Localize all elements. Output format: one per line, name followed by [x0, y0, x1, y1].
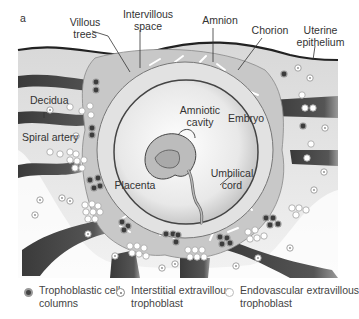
label-intervillous-space: Intervillous space [118, 8, 178, 32]
legend-label: Interstitial extravillous trophoblast [131, 284, 231, 309]
interstitial-trophoblast-icon [116, 288, 125, 297]
label-amniotic-cavity: Amniotic cavity [170, 104, 230, 128]
legend-interstitial-trophoblast: Interstitial extravillous trophoblast [116, 284, 231, 309]
trophoblastic-cell-column-icon [24, 288, 33, 297]
legend-label: Trophoblastic cell columns [39, 284, 120, 309]
label-chorion: Chorion [245, 24, 295, 36]
legend-trophoblastic-cell-columns: Trophoblastic cell columns [24, 284, 120, 309]
label-villous-trees: Villous trees [60, 16, 110, 40]
panel-label: a [20, 12, 26, 24]
label-decidua: Decidua [30, 94, 69, 106]
label-spiral-artery: Spiral artery [22, 131, 79, 143]
legend-endovascular-trophoblast: Endovascular extravillous trophoblast [225, 284, 359, 309]
endovascular-trophoblast-icon [225, 288, 234, 297]
label-placenta: Placenta [110, 179, 160, 191]
legend-label: Endovascular extravillous trophoblast [240, 284, 359, 309]
label-uterine-epithelium: Uterine epithelium [293, 24, 348, 48]
label-umbilical-cord: Umbilical cord [207, 167, 257, 191]
label-embryo: Embryo [222, 112, 270, 124]
label-amnion: Amnion [195, 14, 245, 26]
